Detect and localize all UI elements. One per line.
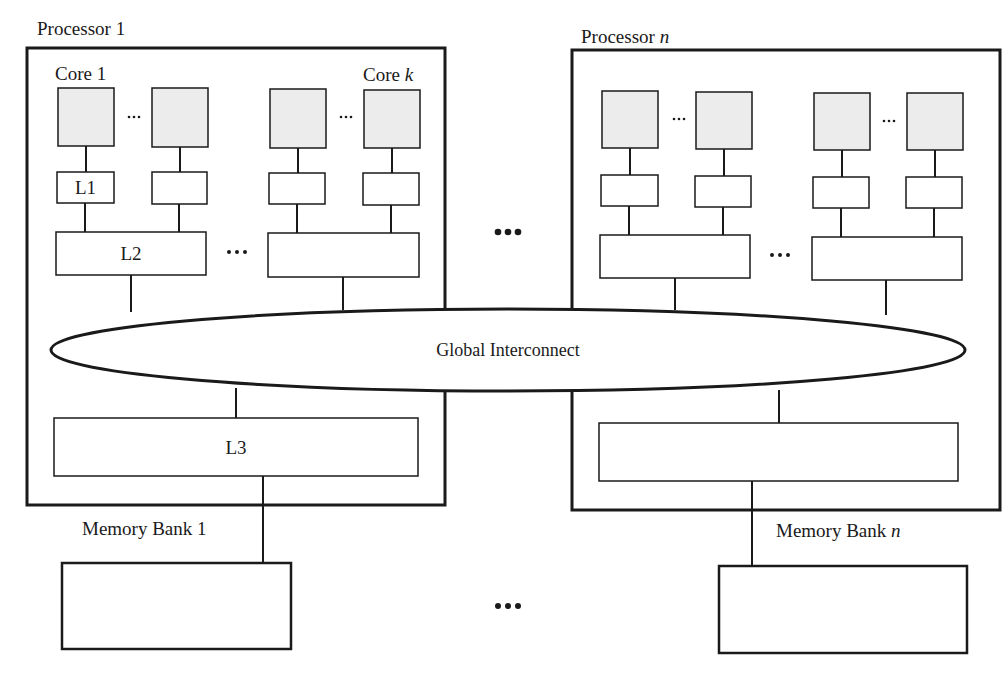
global-interconnect-label: Global Interconnect	[51, 341, 965, 359]
memory-bank-n-box	[719, 566, 967, 653]
core-1-label: Core 1	[55, 64, 106, 83]
processor-n-l3-cache-box	[599, 423, 958, 481]
l2-cache-box	[812, 237, 962, 280]
memory-bank-1-label: Memory Bank 1	[82, 519, 207, 538]
l1-cache-box	[906, 177, 962, 208]
core-box	[152, 88, 208, 147]
core-box	[364, 90, 420, 148]
core-box	[696, 92, 752, 149]
l3-label: L3	[54, 438, 418, 457]
core-box	[602, 91, 658, 148]
processor-1-label: Processor 1	[37, 19, 125, 38]
core-box	[270, 89, 326, 148]
l2-label: L2	[56, 244, 206, 263]
l2-cache-box	[268, 233, 419, 277]
l2-cache-box	[600, 235, 750, 278]
processor-1-cores	[58, 88, 420, 148]
memory-bank-n-label: Memory Bank n	[776, 521, 901, 540]
core-box	[814, 93, 870, 150]
l1-cache-box	[813, 177, 869, 208]
l1-cache-box	[363, 173, 419, 205]
l1-cache-box	[695, 176, 751, 207]
l1-label: L1	[57, 178, 114, 197]
processor-n-l1-caches	[601, 175, 962, 208]
core-box	[58, 88, 114, 146]
memory-bank-1-box	[62, 563, 291, 649]
processor-n-l2-caches	[600, 235, 962, 280]
l1-cache-box	[152, 172, 207, 204]
processor-n-cores	[602, 91, 963, 150]
l1-cache-box	[269, 173, 325, 204]
l1-cache-box	[601, 175, 658, 206]
core-k-label: Core k	[363, 65, 413, 84]
core-box	[907, 93, 963, 150]
processor-n-label: Processor n	[581, 27, 669, 46]
